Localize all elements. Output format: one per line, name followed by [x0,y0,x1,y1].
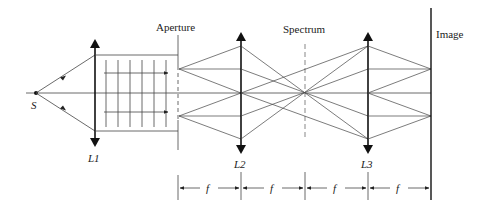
rays-l3-to-image [368,46,431,139]
focal-dimension-lines [178,172,429,200]
image-label: Image [436,28,464,40]
ray-arrow-icon [60,106,66,111]
lens-l3-label: L3 [360,158,373,170]
optics-diagram: S L1 Aperture [0,0,482,212]
ray-arrow-icon [60,76,66,81]
source-label: S [31,99,37,111]
focal-length-label: f [270,182,275,194]
rays-aperture-to-l2 [179,46,241,139]
spectrum-label: Spectrum [283,23,326,35]
lens-l1-label: L1 [87,152,100,164]
aperture-label: Aperture [156,21,195,33]
rays-l2-to-l3 [241,46,368,139]
diagram-canvas: S L1 Aperture [0,0,482,212]
focal-length-label: f [206,182,211,194]
focal-length-label: f [396,182,401,194]
lens-l2-label: L2 [233,158,246,170]
focal-length-label: f [333,182,338,194]
